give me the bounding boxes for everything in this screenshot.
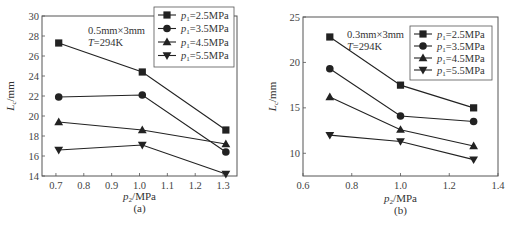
y-tick-label: 28 [29, 31, 40, 42]
data-point-circle-icon [397, 112, 405, 120]
y-tick-label: 20 [290, 57, 301, 68]
x-tick-label: 1.2 [443, 180, 456, 191]
y-tick-label: 10 [290, 148, 301, 159]
y-tick-label: 18 [29, 131, 40, 142]
y-tick-label: 15 [290, 102, 301, 113]
x-tick-label: 0.8 [77, 180, 90, 191]
data-point-circle-icon [326, 65, 334, 73]
annotation-dimensions: 0.3mm×3mm [347, 29, 404, 40]
data-point-circle-icon [470, 118, 478, 126]
y-tick-label: 20 [29, 111, 40, 122]
data-point-circle-icon [222, 148, 230, 156]
x-tick-label: 1.4 [491, 180, 505, 191]
legend: p1=2.5MPap1=3.5MPap1=4.5MPap1=5.5MPa [154, 7, 234, 67]
data-point-square-icon [139, 68, 146, 75]
x-tick-label: 0.7 [49, 180, 62, 191]
annotation-temperature: T=294K [347, 41, 383, 52]
data-point-square-icon [326, 33, 333, 40]
data-point-triangle-up-icon [54, 118, 63, 126]
data-point-triangle-down-icon [469, 156, 478, 164]
y-axis-label: Lc/mm [266, 81, 280, 112]
data-point-triangle-up-icon [325, 93, 334, 101]
x-tick-label: 1.0 [394, 180, 407, 191]
data-point-square-icon [222, 126, 229, 133]
y-axis-label: Lc/mm [4, 81, 18, 112]
y-tick-label: 30 [29, 11, 40, 22]
data-point-square-icon [55, 39, 62, 46]
x-tick-label: 1.1 [161, 180, 174, 191]
data-point-triangle-up-icon [396, 125, 405, 133]
data-point-square-icon [470, 104, 477, 111]
annotation-temperature: T=294K [88, 37, 124, 48]
series-p1=5.5MPa [325, 132, 478, 164]
y-tick-label: 26 [29, 51, 40, 62]
x-tick-label: 0.6 [296, 180, 309, 191]
data-point-circle-icon [55, 93, 63, 101]
x-tick-label: 0.8 [345, 180, 358, 191]
data-point-square-icon [397, 82, 404, 89]
x-tick-label: 1.2 [189, 180, 202, 191]
legend-square-icon [163, 11, 170, 18]
chart-panel-b: 101520250.60.81.01.21.40.3mm×3mmT=294Kp1… [266, 12, 505, 218]
panel-label: (b) [394, 204, 407, 217]
annotation-dimensions: 0.5mm×3mm [88, 25, 145, 36]
figure-two-panel-line-charts: 1416182022242628300.70.80.91.01.11.21.30… [0, 0, 512, 227]
y-tick-label: 14 [29, 171, 40, 182]
chart-panel-a: 1416182022242628300.70.80.91.01.11.21.30… [4, 7, 237, 215]
panel-label: (a) [133, 202, 146, 215]
y-tick-label: 16 [29, 151, 40, 162]
series-p1=5.5MPa [54, 142, 230, 179]
legend: p1=2.5MPap1=3.5MPap1=4.5MPap1=5.5MPa [410, 26, 492, 80]
y-tick-label: 24 [29, 71, 40, 82]
legend-circle-icon [163, 25, 171, 33]
y-tick-label: 25 [290, 12, 301, 23]
x-tick-label: 1.3 [217, 180, 230, 191]
data-point-triangle-down-icon [54, 147, 63, 155]
legend-circle-icon [419, 42, 427, 50]
data-point-circle-icon [138, 91, 146, 99]
legend-square-icon [419, 30, 426, 37]
x-tick-label: 0.9 [105, 180, 118, 191]
y-tick-label: 22 [29, 91, 40, 102]
